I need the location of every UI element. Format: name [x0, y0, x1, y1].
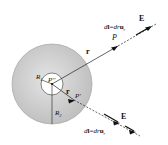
label-P-double-prime: P'': [47, 76, 56, 84]
arrow-r-at-P-icon: [111, 46, 118, 51]
label-r-outer: r: [86, 47, 90, 56]
label-E-upper: E: [139, 14, 144, 23]
label-P-prime: P': [74, 92, 81, 100]
label-dl-lower: dl=drur: [84, 127, 106, 136]
label-P: P: [111, 33, 117, 42]
label-dl-upper: dl=drur: [104, 23, 126, 32]
E-lower-segment-1: [104, 114, 118, 122]
E-upper-segment: [136, 27, 150, 35]
shell-field-diagram: r P E dl=drur R1 P'' r P' R2 E dl=drur: [0, 0, 168, 145]
label-r-inner: r: [66, 87, 70, 96]
label-E-lower: E: [121, 112, 126, 121]
